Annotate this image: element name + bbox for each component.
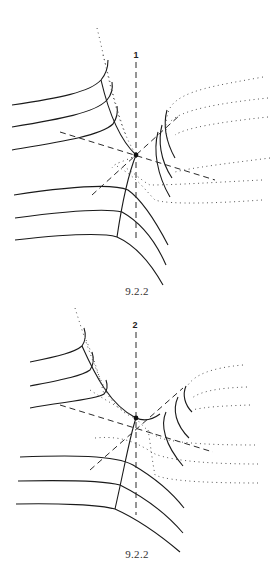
axis-label-1: 1 [133,50,138,60]
axis-label-2: 2 [132,320,137,330]
figure-top: 1 9.2.2 [0,0,275,290]
phase-portrait-bottom [0,290,275,578]
singular-point-top [134,153,139,158]
phase-portrait-top [0,0,275,290]
figure-bottom: 2 9.2.2 [0,290,275,578]
singular-point-bottom [134,416,139,421]
figure-caption-bottom: 9.2.2 [125,548,149,560]
